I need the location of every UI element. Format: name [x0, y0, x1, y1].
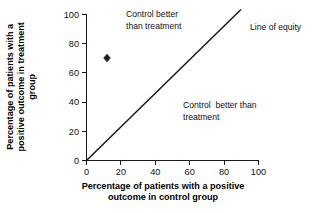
- x-tick-label-100: 100: [251, 167, 266, 177]
- y-axis-title-line3: group: [28, 0, 39, 175]
- x-axis-ticks: [87, 161, 259, 166]
- x-tick-label-80: 80: [219, 167, 229, 177]
- annotation-line-of-equity: Line of equity: [250, 22, 302, 32]
- x-tick-label-60: 60: [185, 167, 195, 177]
- annotation-equity-line-label: Line of equity: [250, 22, 302, 32]
- x-tick-label-0: 0: [84, 167, 89, 177]
- y-axis-title-line2: positive outcome in treatment: [16, 0, 27, 175]
- y-axis-tick-labels: 0 20 40 60 80 100: [64, 10, 79, 166]
- y-tick-label-20: 20: [69, 127, 79, 137]
- y-axis-title-line1: Percentage of patients with a: [5, 0, 16, 175]
- y-tick-label-60: 60: [69, 68, 79, 78]
- axes-group: [87, 14, 259, 161]
- figure-scatter-plot: 0 20 40 60 80 100 0 20 40 60 80 100: [0, 0, 332, 213]
- x-tick-label-20: 20: [116, 167, 126, 177]
- x-tick-label-40: 40: [150, 167, 160, 177]
- x-axis-tick-labels: 0 20 40 60 80 100: [84, 167, 266, 177]
- data-point-marker: [104, 54, 111, 62]
- x-axis-title-line2: outcome in control group: [44, 192, 282, 203]
- line-of-equity: [87, 10, 242, 161]
- y-axis-title: Percentage of patients with a positive o…: [5, 0, 39, 175]
- annotation-upper-left-line1: Control better: [126, 9, 178, 19]
- data-series-study: [104, 54, 111, 62]
- annotation-upper-left-line2: than treatment: [126, 21, 182, 31]
- x-axis-title-line1: Percentage of patients with a positive: [44, 181, 282, 192]
- y-tick-label-80: 80: [69, 39, 79, 49]
- annotation-lower-right-line1: Control better than: [183, 100, 257, 110]
- y-tick-label-40: 40: [69, 97, 79, 107]
- annotation-lower-right-region: Control better than treatment: [183, 100, 257, 122]
- y-axis-ticks: [82, 15, 87, 161]
- annotation-lower-right-line2: treatment: [183, 112, 220, 122]
- y-tick-label-0: 0: [74, 156, 79, 166]
- annotation-upper-left-region: Control better than treatment: [126, 9, 182, 31]
- x-axis-title: Percentage of patients with a positive o…: [44, 181, 282, 203]
- y-tick-label-100: 100: [64, 10, 79, 20]
